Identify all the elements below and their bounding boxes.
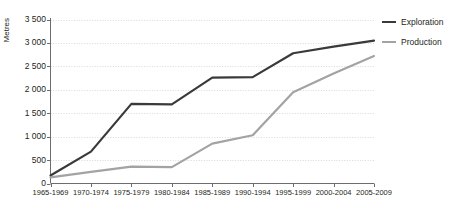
- x-axis-tick-label: 1975-1979: [113, 188, 149, 197]
- x-axis-tick-label: 1985-1989: [194, 188, 230, 197]
- x-axis-tick-label: 2005-2009: [356, 188, 392, 197]
- chart-legend: Exploration Production: [382, 14, 444, 54]
- x-axis-tick-label: 1990-1994: [235, 188, 271, 197]
- axis-lines: [51, 18, 375, 184]
- gridlines: [51, 21, 375, 161]
- x-axis-tick-label: 2000-2004: [316, 188, 352, 197]
- x-axis-tick-label: 1995-1999: [275, 188, 311, 197]
- x-axis-tick-label: 1965-1969: [33, 188, 69, 197]
- x-axis-tick-label: 1980-1984: [154, 188, 190, 197]
- line-chart: Metres 05001 0001 5002 0002 5003 0003 50…: [0, 0, 464, 218]
- legend-label-exploration: Exploration: [401, 17, 444, 27]
- legend-swatch-exploration: [382, 21, 396, 23]
- x-axis-ticks: [52, 184, 375, 188]
- series-line-exploration: [51, 41, 375, 176]
- x-axis-tick-label: 1970-1974: [73, 188, 109, 197]
- legend-item-exploration: Exploration: [382, 14, 444, 30]
- legend-swatch-production: [382, 41, 396, 43]
- series-line-production: [51, 56, 375, 177]
- legend-item-production: Production: [382, 34, 444, 50]
- y-axis-ticks: [47, 21, 51, 185]
- legend-label-production: Production: [401, 37, 442, 47]
- data-series: [51, 41, 375, 178]
